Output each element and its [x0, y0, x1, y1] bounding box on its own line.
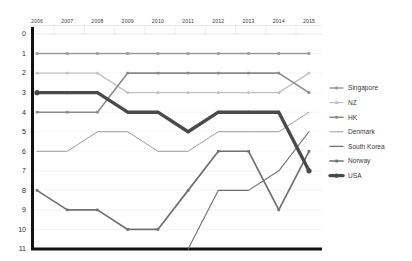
data-point-marker [217, 150, 220, 153]
y-tick-label: 10 [18, 226, 26, 233]
data-point-marker [306, 168, 311, 173]
legend-item-south-korea[interactable]: South Korea [330, 143, 385, 150]
series-nz [36, 72, 311, 94]
y-tick-label: 4 [22, 109, 26, 116]
legend-swatch-marker [335, 87, 338, 90]
data-point-marker [36, 72, 39, 75]
x-tick-label: 2014 [273, 18, 285, 24]
data-point-marker [247, 52, 250, 55]
data-point-marker [36, 111, 39, 114]
data-point-marker [308, 72, 311, 75]
series-singapore [36, 52, 311, 55]
data-point-marker [36, 189, 39, 192]
legend-item-hk[interactable]: HK [330, 114, 358, 121]
legend-item-nz[interactable]: NZ [330, 99, 357, 106]
data-point-marker [277, 52, 280, 55]
data-point-marker [217, 72, 220, 75]
data-point-marker [96, 209, 99, 212]
data-point-marker [277, 209, 280, 212]
data-point-marker [126, 91, 129, 94]
legend-item-denmark[interactable]: Denmark [330, 128, 375, 135]
data-point-marker [66, 111, 69, 114]
data-point-marker [187, 72, 190, 75]
data-point-marker [187, 91, 190, 94]
y-tick-label: 11 [19, 245, 26, 252]
data-point-marker [217, 91, 220, 94]
data-point-marker [247, 72, 250, 75]
chart-legend: SingaporeNZHKDenmarkSouth KoreaNorwayUSA [330, 84, 385, 179]
gridlines [31, 54, 322, 230]
data-point-marker [126, 228, 129, 231]
y-axis-tick-labels: 01234567891011 [18, 30, 26, 252]
data-point-marker [96, 52, 99, 55]
y-tick-label: 2 [22, 69, 26, 76]
legend-label: South Korea [348, 143, 385, 150]
y-tick-label: 7 [22, 167, 26, 174]
data-point-marker [277, 72, 280, 75]
legend-item-usa[interactable]: USA [330, 172, 362, 179]
data-point-tick [127, 111, 128, 114]
data-point-marker [126, 52, 129, 55]
data-point-tick [218, 111, 219, 114]
legend-label: Norway [348, 157, 371, 165]
data-point-marker [277, 91, 280, 94]
data-point-marker [157, 91, 160, 94]
y-tick-label: 3 [22, 89, 26, 96]
x-tick-label: 2006 [31, 18, 43, 24]
axis-lines [24, 26, 322, 250]
legend-label: HK [348, 114, 358, 121]
x-tick-label: 2015 [303, 18, 315, 24]
series-line [37, 73, 309, 93]
data-point-tick [97, 91, 98, 94]
data-point-marker [36, 52, 39, 55]
data-point-marker [66, 72, 69, 75]
data-point-tick [278, 111, 279, 114]
legend-swatch-marker [335, 101, 338, 104]
data-point-marker [247, 91, 250, 94]
data-point-marker [187, 189, 190, 192]
chart-plot-area: 2006200720082009201020112012201320142015… [0, 0, 412, 261]
y-tick-label: 6 [22, 148, 26, 155]
y-tick-label: 5 [22, 128, 26, 135]
x-tick-label: 2012 [212, 18, 224, 24]
data-point-marker [66, 52, 69, 55]
legend-item-norway[interactable]: Norway [330, 157, 371, 165]
data-point-marker [34, 90, 39, 95]
rank-line-chart: 2006200720082009201020112012201320142015… [0, 0, 412, 261]
data-point-marker [126, 72, 129, 75]
x-tick-label: 2008 [91, 18, 103, 24]
legend-label: Singapore [348, 84, 378, 92]
data-point-tick [248, 111, 249, 114]
x-tick-label: 2011 [182, 18, 194, 24]
data-point-marker [217, 52, 220, 55]
y-tick-label: 8 [22, 187, 26, 194]
x-tick-label: 2010 [152, 18, 164, 24]
data-point-marker [187, 52, 190, 55]
y-tick-label: 9 [22, 206, 26, 213]
data-point-marker [157, 228, 160, 231]
legend-swatch-marker [334, 173, 338, 177]
data-point-marker [157, 52, 160, 55]
data-point-marker [308, 52, 311, 55]
data-point-tick [67, 91, 68, 94]
legend-swatch-marker [335, 116, 338, 119]
legend-item-singapore[interactable]: Singapore [330, 84, 378, 92]
data-point-tick [157, 111, 158, 114]
data-point-marker [308, 150, 311, 153]
x-axis-tick-labels: 2006200720082009201020112012201320142015 [31, 18, 315, 24]
x-tick-label: 2007 [61, 18, 73, 24]
data-point-marker [96, 72, 99, 75]
x-tick-label: 2009 [122, 18, 134, 24]
data-point-marker [96, 111, 99, 114]
legend-label: NZ [348, 99, 357, 106]
legend-label: USA [348, 172, 362, 179]
y-tick-label: 1 [22, 50, 26, 57]
legend-label: Denmark [348, 128, 375, 135]
data-point-tick [188, 130, 189, 133]
data-point-marker [66, 209, 69, 212]
data-point-marker [157, 72, 160, 75]
data-point-marker [247, 150, 250, 153]
data-series-group [34, 52, 311, 249]
data-point-marker [308, 91, 311, 94]
x-tick-label: 2013 [242, 18, 254, 24]
